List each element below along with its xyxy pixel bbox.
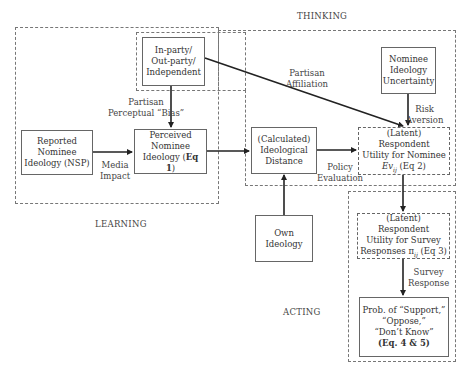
ideological-distance-node: (Calculated) Ideological Distance [251, 127, 317, 174]
risk-aversion-label: Risk Aversion [406, 104, 443, 126]
policy-evaluation-label: Policy Evaluation [317, 162, 363, 184]
partisan-bias-label: Partisan Perceptual “Bias” [108, 97, 184, 119]
thinking-label: THINKING [297, 11, 347, 21]
own-ideology-node: Own Ideology [255, 215, 313, 262]
partisan-affiliation-label: Partisan Affiliation [286, 68, 328, 90]
perceived-ideology-node: Perceived Nominee Ideology (Eq 1) [134, 129, 207, 174]
party-identity-node: In-party/ Out-party/ Independent [142, 37, 205, 86]
survey-response-label: Survey Response [408, 267, 449, 289]
utility-nominee-node: (Latent) Respondent Utility for Nominee … [358, 127, 450, 175]
media-impact-label: Media Impact [100, 160, 130, 182]
response-probability-node: Prob. of “Support,” “Oppose,” “Don’t Kno… [359, 297, 449, 357]
learning-label: LEARNING [95, 219, 147, 229]
nominee-uncertainty-node: Nominee Ideology Uncertainty [381, 47, 436, 94]
reported-ideology-node: Reported Nominee Ideology (NSP) [21, 130, 93, 175]
acting-label: ACTING [283, 307, 321, 317]
utility-survey-node: (Latent) Respondent Utility for Survey R… [357, 213, 450, 259]
